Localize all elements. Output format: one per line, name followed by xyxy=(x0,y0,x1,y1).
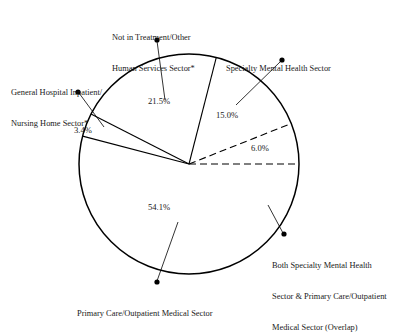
callout-primary-care: Primary Care/Outpatient Medical Sector xyxy=(77,288,213,336)
leader-dot-overlap xyxy=(281,231,286,236)
callout-specialty-mental-health-line1: Specialty Mental Health Sector xyxy=(226,64,331,74)
callout-not-in-treatment-line2: Human Services Sector* xyxy=(112,64,195,74)
callout-primary-care-line1: Primary Care/Outpatient Medical Sector xyxy=(77,309,213,319)
value-label-overlap: 6.0% xyxy=(251,143,269,153)
callout-not-in-treatment: Not in Treatment/Other Human Services Se… xyxy=(112,12,195,95)
value-label-general-hospital: 3.4% xyxy=(74,125,92,135)
callout-overlap: Both Specialty Mental Health Sector & Pr… xyxy=(272,240,387,336)
callout-general-hospital-line1: General Hospital Inpatient/ xyxy=(11,88,102,98)
leader-dot-primary-care xyxy=(154,279,159,284)
callout-overlap-line1: Both Specialty Mental Health xyxy=(272,261,387,271)
callout-specialty-mental-health: Specialty Mental Health Sector xyxy=(226,43,331,95)
value-label-not-in-treatment: 21.5% xyxy=(148,96,170,106)
callout-overlap-line3: Medical Sector (Overlap) xyxy=(272,323,387,333)
value-label-primary-care: 54.1% xyxy=(148,202,170,212)
value-label-specialty-mental-health: 15.0% xyxy=(216,110,238,120)
callout-not-in-treatment-line1: Not in Treatment/Other xyxy=(112,33,195,43)
callout-overlap-line2: Sector & Primary Care/Outpatient xyxy=(272,292,387,302)
callout-general-hospital: General Hospital Inpatient/ Nursing Home… xyxy=(11,67,102,150)
